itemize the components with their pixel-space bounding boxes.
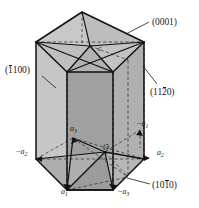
label-axis-a3-pos: a3 bbox=[70, 125, 77, 134]
crystal-prism-drawing bbox=[0, 0, 199, 208]
label-plane-1100: (1100) bbox=[5, 66, 30, 76]
label-origin: O bbox=[103, 144, 109, 152]
leader-0001-line bbox=[126, 22, 149, 34]
label-plane-0001: (0001) bbox=[152, 18, 177, 28]
label-axis-c: c bbox=[98, 45, 102, 53]
label-axis-a1-pos: a1 bbox=[61, 188, 68, 197]
arrow-a2-pos bbox=[143, 155, 150, 161]
overbar-digit: 1 bbox=[8, 66, 13, 76]
label-axis-a1-neg: −a1 bbox=[137, 120, 148, 129]
leader-1120-line bbox=[143, 66, 157, 84]
label-axis-a2-neg: −a2 bbox=[16, 148, 27, 157]
label-axis-a2-pos: a2 bbox=[157, 149, 164, 158]
overbar-digit: 1 bbox=[164, 181, 169, 191]
leader-1010-line bbox=[127, 178, 150, 184]
label-plane-1120: (1120) bbox=[150, 88, 174, 98]
label-plane-1010: (1010) bbox=[152, 181, 177, 191]
hexagonal-crystal-figure: (0001) (1100) (1120) (1010) c a3 −a1 −a2… bbox=[0, 0, 199, 208]
overbar-digit: 2 bbox=[162, 88, 167, 98]
label-axis-a3-neg: −a3 bbox=[118, 188, 129, 197]
